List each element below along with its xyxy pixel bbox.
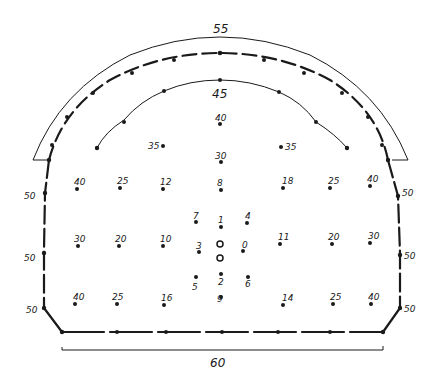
cut-hole-cluster: 7 1 4 3 0 5 2 6 9 [192,211,251,304]
hole-label: 25 [117,176,129,186]
hole-label: 20 [115,234,127,244]
hole-label: 30 [74,234,86,244]
left-35-hole [161,144,165,148]
left-middle-charge-label: 50 [24,253,36,263]
right-middle-charge-label: 50 [404,251,416,261]
hole-label: 30 [368,231,380,241]
right-35-label: 35 [285,142,297,152]
hole-label: 40 [368,292,380,302]
upper-hole-row: 40 25 12 8 18 25 40 [74,174,379,192]
left-35-label: 35 [148,141,160,151]
hole-label: 25 [328,176,340,186]
hole-label: 40 [74,177,86,187]
hole-label: 8 [217,178,223,188]
cut-hole-label: 0 [242,240,248,250]
hole-label: 12 [160,177,172,187]
right-lower-charge-label: 50 [404,304,416,314]
tunnel-blast-diagram: 55 50 50 50 50 [0,0,440,387]
diagram-canvas: 55 50 50 50 50 [0,0,440,387]
floor-width-dimension [62,346,383,350]
center-30-label: 30 [215,151,227,161]
left-lower-charge-label: 50 [26,305,38,315]
left-upper-charge-label: 50 [24,191,36,201]
empty-cut-hole [217,241,223,247]
hole-label: 40 [73,292,85,302]
right-35-hole [279,145,283,149]
crown-charge-label: 45 [212,87,227,101]
hole-label: 11 [278,232,289,242]
cut-hole-label: 5 [192,282,198,292]
cut-hole-label: 7 [193,211,199,221]
hole-label: 10 [160,234,172,244]
hole-label: 25 [112,292,124,302]
hole-label: 20 [328,232,340,242]
middle-hole-row: 30 20 10 11 20 30 [74,231,380,248]
cut-hole-label: 6 [245,279,251,289]
cut-hole-label: 1 [218,215,224,225]
hole-label: 16 [161,293,173,303]
cut-hole-label: 4 [245,211,251,221]
hole-label: 14 [282,293,294,303]
hole-label: 40 [367,174,379,184]
right-upper-charge-label: 50 [402,188,414,198]
lower-hole-row: 40 25 16 14 25 40 [73,292,380,307]
arch-span-label: 55 [213,22,228,36]
hole-label: 18 [282,176,294,186]
cut-hole-label: 3 [196,241,202,251]
floor-width-label: 60 [210,356,226,370]
empty-cut-hole [217,255,223,261]
cut-hole-label: 2 [218,277,224,287]
center-top-charge-label: 40 [215,113,227,123]
hole-label: 25 [330,292,342,302]
